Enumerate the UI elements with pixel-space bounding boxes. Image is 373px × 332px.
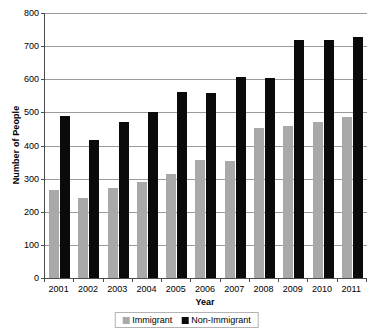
x-axis-tickmark	[220, 278, 221, 282]
x-axis-tick-label: 2008	[249, 284, 278, 294]
bar	[137, 182, 147, 278]
x-axis-tickmark	[278, 278, 279, 282]
x-axis-tick-label: 2004	[132, 284, 161, 294]
bar	[166, 174, 176, 278]
x-axis-tickmark	[337, 278, 338, 282]
x-axis-title: Year	[44, 297, 366, 307]
bar-group	[279, 13, 308, 278]
x-axis-tickmark	[161, 278, 162, 282]
bar	[294, 40, 304, 278]
bar	[49, 190, 59, 278]
y-axis-tick-label: 700	[1, 41, 45, 51]
x-axis-tickmark	[366, 278, 367, 282]
legend-swatch-icon	[181, 317, 188, 324]
x-axis-tickmark	[190, 278, 191, 282]
legend-item: Non-Immigrant	[181, 315, 251, 325]
bar	[60, 116, 70, 278]
bar	[283, 126, 293, 278]
bar-group	[162, 13, 191, 278]
x-axis-tick-label: 2011	[337, 284, 366, 294]
bar	[119, 122, 129, 278]
bar	[342, 117, 352, 278]
bar-group	[308, 13, 337, 278]
bar-group	[250, 13, 279, 278]
y-axis-tick-label: 600	[1, 74, 45, 84]
y-axis-tick-label: 800	[1, 8, 45, 18]
x-axis-tickmarks	[44, 278, 366, 283]
bar	[148, 112, 158, 278]
x-axis-tickmark	[73, 278, 74, 282]
x-axis-tick-label: 2006	[190, 284, 219, 294]
x-axis-tick-label: 2002	[73, 284, 102, 294]
bar	[78, 198, 88, 278]
bar-group	[338, 13, 367, 278]
bar	[206, 93, 216, 278]
x-axis-tick-labels: 2001200220032004200520062007200820092010…	[44, 284, 366, 294]
x-axis-tick-label: 2007	[220, 284, 249, 294]
bar-group	[74, 13, 103, 278]
bar	[89, 140, 99, 278]
legend-item-label: Non-Immigrant	[191, 315, 251, 325]
bar	[324, 40, 334, 279]
bar-group	[104, 13, 133, 278]
x-axis-tickmark	[44, 278, 45, 282]
bar	[353, 37, 363, 278]
bar-group	[133, 13, 162, 278]
bar	[254, 128, 264, 278]
bar-chart: Number of People 01002003004005006007008…	[0, 0, 373, 332]
legend-item: Immigrant	[122, 315, 172, 325]
bar-group	[221, 13, 250, 278]
legend-item-label: Immigrant	[132, 315, 172, 325]
bar	[265, 78, 275, 278]
y-axis-tick-label: 200	[1, 207, 45, 217]
x-axis-tickmark	[249, 278, 250, 282]
y-axis-tick-label: 400	[1, 141, 45, 151]
y-axis-tick-label: 0	[1, 273, 45, 283]
bars-layer	[45, 13, 367, 278]
x-axis-tick-label: 2003	[103, 284, 132, 294]
y-axis-tick-label: 300	[1, 174, 45, 184]
bar-group	[191, 13, 220, 278]
x-axis-tick-label: 2010	[307, 284, 336, 294]
bar	[225, 161, 235, 278]
bar	[108, 188, 118, 278]
legend-swatch-icon	[122, 317, 129, 324]
x-axis-tick-label: 2005	[161, 284, 190, 294]
y-axis-tick-label: 100	[1, 240, 45, 250]
x-axis-tickmark	[103, 278, 104, 282]
chart-legend: ImmigrantNon-Immigrant	[114, 312, 259, 328]
y-axis-tick-label: 500	[1, 107, 45, 117]
x-axis-tick-label: 2009	[278, 284, 307, 294]
bar	[236, 77, 246, 278]
bar-group	[45, 13, 74, 278]
plot-area: 0100200300400500600700800	[44, 13, 367, 279]
x-axis-tick-label: 2001	[44, 284, 73, 294]
x-axis-tickmark	[307, 278, 308, 282]
bar	[313, 122, 323, 278]
bar	[177, 92, 187, 278]
bar	[195, 160, 205, 278]
x-axis-tickmark	[132, 278, 133, 282]
